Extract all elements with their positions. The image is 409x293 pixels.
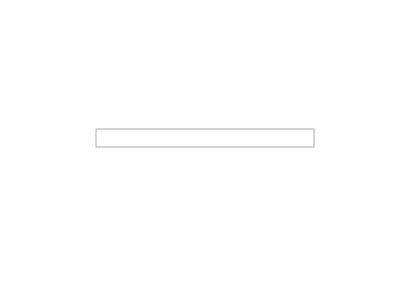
figure-container [0,0,409,293]
legend-box [96,129,314,147]
two-panel-figure [0,0,409,293]
legend [96,129,314,147]
